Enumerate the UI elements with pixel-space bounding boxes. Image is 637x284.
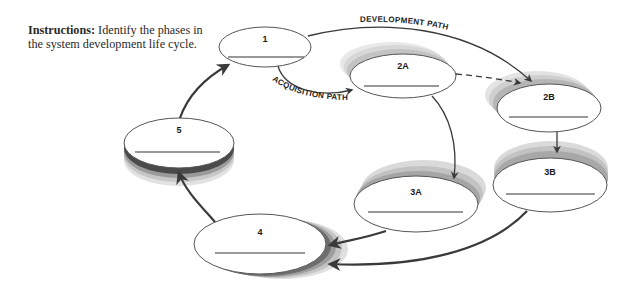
phase-2b-label: 2B: [543, 92, 555, 102]
phase-2a: 2A: [350, 54, 456, 98]
phase-3b-label: 3B: [544, 167, 556, 177]
development-path-label: DEVELOPMENT PATH: [360, 15, 450, 32]
phase-4: 4: [194, 214, 326, 274]
arrow-5-to-1: [180, 65, 228, 118]
phase-5-label: 5: [176, 125, 181, 135]
phase-5: 5: [124, 118, 234, 168]
acquisition-path-label: ACQUISITION PATH: [271, 74, 349, 102]
phase-2b: 2B: [497, 84, 601, 132]
phase-1: 1: [219, 27, 311, 67]
phase-3a: 3A: [354, 176, 478, 232]
phase-3a-label: 3A: [410, 187, 422, 197]
phase-3b: 3B: [493, 158, 607, 212]
phase-4-label: 4: [257, 227, 262, 237]
sdlc-diagram: 1 2A 2B 3B 3A 4 5 DEVELOPMENT: [0, 0, 637, 284]
phase-1-label: 1: [262, 34, 267, 44]
phase-2a-label: 2A: [397, 61, 409, 71]
